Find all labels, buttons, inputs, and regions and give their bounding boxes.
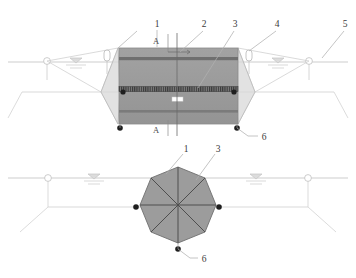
diagram-canvas: 1 2 3 4 5 6 A A bbox=[0, 0, 356, 278]
lower-band bbox=[119, 110, 238, 113]
plan-view bbox=[8, 154, 348, 258]
water-surface-symbol-right bbox=[268, 58, 288, 68]
callout-5: 5 bbox=[343, 19, 348, 29]
anchor-pile-icon-left-plan bbox=[45, 175, 52, 182]
water-surface-symbol-left-plan bbox=[84, 174, 104, 184]
callout-2: 2 bbox=[202, 19, 207, 29]
engineering-diagram-svg: 1 2 3 4 5 6 A A bbox=[0, 0, 356, 278]
section-mark-a-bottom: A bbox=[153, 125, 160, 135]
callout-4: 4 bbox=[275, 19, 280, 29]
callout-3-plan: 3 bbox=[216, 144, 221, 154]
center-marker bbox=[172, 97, 183, 101]
bank-slope-left bbox=[8, 92, 22, 118]
radial-spokes bbox=[140, 167, 216, 243]
float-collar-band bbox=[119, 57, 238, 60]
callout-1: 1 bbox=[155, 19, 160, 29]
anchor-dot-icon bbox=[231, 89, 236, 94]
callout-3: 3 bbox=[233, 19, 238, 29]
ballast-ring-band bbox=[119, 87, 238, 92]
callout-6-top: 6 bbox=[262, 132, 267, 142]
bank-slope-right bbox=[334, 92, 348, 118]
anchor-dot-icon-plan-left bbox=[133, 204, 139, 210]
water-surface-symbol-right-plan bbox=[246, 174, 266, 184]
bank-slope-right-plan bbox=[308, 207, 336, 232]
section-mark-a-top: A bbox=[153, 36, 160, 46]
bank-slope-left-plan bbox=[20, 207, 48, 232]
callout-1-plan: 1 bbox=[184, 144, 189, 154]
elevation-view bbox=[8, 30, 348, 136]
callout-6-plan: 6 bbox=[202, 254, 207, 264]
anchor-dot-icon-plan-right bbox=[216, 204, 222, 210]
water-surface-symbol-left bbox=[66, 58, 86, 68]
anchor-dot-icon bbox=[120, 89, 125, 94]
anchor-pile-icon-right-plan bbox=[305, 175, 312, 182]
